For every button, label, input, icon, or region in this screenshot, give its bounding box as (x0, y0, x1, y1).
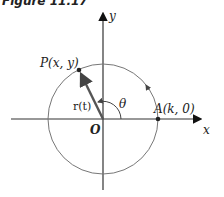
point-A-label: A(k, 0) (153, 102, 195, 116)
vector-label: r(t) (73, 100, 91, 113)
angle-label: θ (119, 97, 127, 111)
y-axis-label: y (108, 9, 116, 23)
point-P-label: P(x, y) (39, 56, 79, 70)
origin-label: O (90, 123, 101, 137)
point-A (156, 117, 161, 122)
x-axis-label: x (203, 123, 210, 137)
unit-circle-diagram: P(x, y) A(k, 0) r(t) θ O x y (0, 0, 224, 197)
